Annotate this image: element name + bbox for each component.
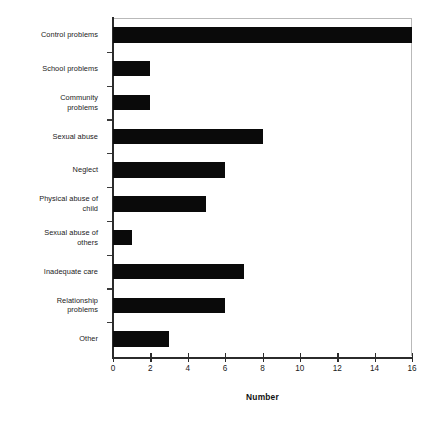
x-axis-tick-label: 0: [98, 364, 128, 373]
category-label: Control problems: [0, 30, 98, 40]
bar: [113, 264, 244, 280]
x-axis-tick-label: 12: [322, 364, 352, 373]
x-axis-tick-label: 16: [397, 364, 427, 373]
category-label: Relationship problems: [0, 296, 98, 315]
bar: [113, 61, 150, 77]
x-axis-tick: [375, 353, 376, 362]
bar: [113, 230, 132, 246]
bar-chart: Control problemsSchool problemsCommunity…: [0, 0, 436, 426]
category-label: Sexual abuse of others: [0, 228, 98, 247]
category-label: Physical abuse of child: [0, 194, 98, 213]
x-axis-tick: [188, 353, 189, 362]
category-label: Inadequate care: [0, 267, 98, 277]
x-axis-tick-label: 6: [210, 364, 240, 373]
x-axis-tick: [337, 353, 338, 362]
category-label: School problems: [0, 64, 98, 74]
category-label: Neglect: [0, 165, 98, 175]
bar: [113, 27, 412, 43]
x-axis-tick: [150, 353, 151, 362]
x-axis-tick-label: 4: [173, 364, 203, 373]
x-axis-tick-label: 2: [135, 364, 165, 373]
x-axis-tick: [113, 353, 114, 362]
x-axis-tick: [263, 353, 264, 362]
x-axis-tick-label: 14: [360, 364, 390, 373]
x-axis-tick-label: 10: [285, 364, 315, 373]
category-label: Sexual abuse: [0, 132, 98, 142]
category-label: Other: [0, 334, 98, 344]
bar: [113, 129, 263, 145]
bar: [113, 196, 206, 212]
bar: [113, 162, 225, 178]
bar: [113, 298, 225, 314]
bar: [113, 95, 150, 111]
bar-series: [113, 18, 412, 356]
x-axis-tick: [225, 353, 226, 362]
bar: [113, 331, 169, 347]
x-axis-title: Number: [113, 392, 412, 402]
x-axis-tick: [300, 353, 301, 362]
x-axis-tick: [412, 353, 413, 362]
x-axis-tick-label: 8: [248, 364, 278, 373]
category-label: Community problems: [0, 93, 98, 112]
category-axis-labels: Control problemsSchool problemsCommunity…: [0, 18, 104, 356]
